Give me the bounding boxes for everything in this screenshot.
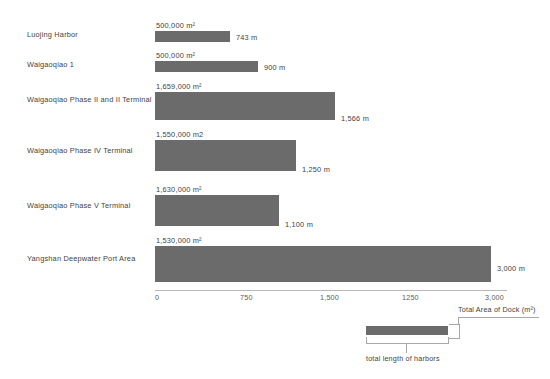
area-value-label: 500,000 m² — [156, 22, 195, 29]
x-axis-tick-2: 1,500 — [320, 294, 339, 301]
x-axis-tick-0: 0 — [155, 294, 159, 301]
length-value-label: 1,250 m — [302, 166, 330, 173]
area-value-label: 1,630,000 m² — [156, 186, 202, 193]
x-axis-tick-1: 750 — [240, 294, 253, 301]
x-axis-tick-4: 3,000 — [485, 294, 504, 301]
length-value-label: 1,100 m — [285, 221, 313, 228]
category-label: Yangshan Deepwater Port Area — [27, 255, 135, 262]
legend-swatch-bar — [366, 326, 448, 335]
category-label: Waigaoqiao Phase V Terminal — [27, 202, 130, 209]
area-value-label: 1,659,000 m² — [156, 83, 202, 90]
x-axis-line — [155, 290, 507, 291]
legend-area-underline — [458, 317, 539, 318]
bar-yangshan-deepwater-port — [155, 246, 491, 282]
legend-length-label: total length of harbors — [366, 355, 440, 362]
bar-luojing-harbor — [155, 31, 230, 42]
legend-length-leader-line — [406, 343, 407, 353]
category-label: Waigaoqiao Phase IV Terminal — [27, 147, 133, 154]
bar-waigaoqiao-1 — [155, 61, 258, 72]
legend-area-label: Total Area of Dock (m²) — [458, 306, 536, 313]
area-value-label: 500,000 m² — [156, 52, 195, 59]
bar-waigaoqiao-phase-v — [155, 195, 279, 226]
bar-waigaoqiao-phase-ii — [155, 92, 335, 120]
category-label: Luojing Harbor — [27, 31, 78, 38]
legend-length-bracket — [366, 337, 449, 344]
bar-waigaoqiao-phase-iv — [155, 140, 296, 171]
area-value-label: 1,550,000 m2 — [156, 131, 203, 138]
legend-area-leader-line — [458, 318, 459, 325]
category-label: Waigaoqiao Phase II and II Terminal — [27, 96, 152, 103]
chart-legend: Total Area of Dock (m²) total length of … — [366, 312, 550, 374]
legend-area-bracket — [449, 324, 460, 339]
area-value-label: 1,530,000 m² — [156, 237, 202, 244]
length-value-label: 1,566 m — [341, 115, 369, 122]
length-value-label: 743 m — [236, 34, 257, 41]
x-axis-tick-3: 1250 — [402, 294, 419, 301]
length-value-label: 3,000 m — [497, 265, 525, 272]
harbor-comparison-chart: Luojing Harbor 500,000 m² 743 m Waigaoqi… — [0, 0, 550, 379]
length-value-label: 900 m — [264, 64, 285, 71]
category-label: Waigaoqiao 1 — [27, 61, 74, 68]
